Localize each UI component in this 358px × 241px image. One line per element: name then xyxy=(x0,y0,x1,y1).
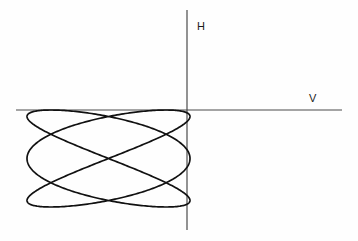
horizontal-deflection-axis-label: H xyxy=(197,21,205,32)
lissajous-plot-svg xyxy=(0,0,358,241)
oscilloscope-display: H V xyxy=(0,0,358,241)
vertical-deflection-axis-label: V xyxy=(309,93,317,104)
lissajous-curve xyxy=(27,110,190,207)
